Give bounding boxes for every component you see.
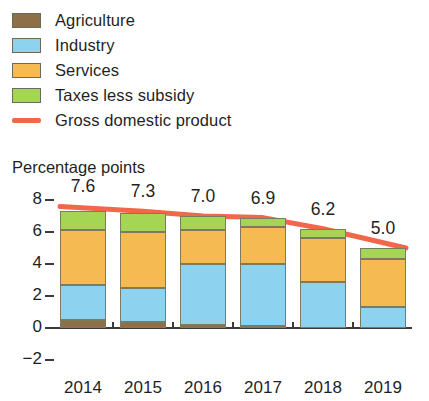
y-axis-tick-label: 2: [8, 285, 42, 305]
bar-segment[interactable]: [240, 227, 286, 264]
x-axis-tick-mark: [232, 322, 234, 328]
bar-segment[interactable]: [120, 232, 166, 288]
bar-segment[interactable]: [180, 264, 226, 325]
bar-segment[interactable]: [60, 230, 106, 284]
bar-segment[interactable]: [360, 307, 406, 328]
y-axis-tick-mark: [45, 295, 54, 297]
bar-segment[interactable]: [240, 264, 286, 326]
bar-data-label: 5.0: [348, 218, 418, 239]
bar-segment[interactable]: [120, 288, 166, 322]
y-axis-tick-label: 0: [8, 317, 42, 337]
bar-segment[interactable]: [240, 218, 286, 228]
x-axis-tick-mark: [292, 322, 294, 328]
x-axis-tick-mark: [172, 322, 174, 328]
y-axis-tick-label: 4: [8, 253, 42, 273]
bar-segment[interactable]: [60, 320, 106, 328]
bar-segment[interactable]: [60, 211, 106, 230]
y-axis-tick-label: −2: [8, 349, 42, 369]
bar-segment[interactable]: [300, 282, 346, 328]
bar-segment[interactable]: [120, 213, 166, 232]
y-axis-tick-mark: [45, 263, 54, 265]
bar-segment[interactable]: [300, 238, 346, 281]
bar-data-label: 6.2: [288, 199, 358, 220]
y-axis-tick-label: 8: [8, 189, 42, 209]
bar-stack[interactable]: [360, 0, 406, 401]
y-axis-tick-mark: [45, 199, 54, 201]
bar-segment[interactable]: [360, 259, 406, 307]
bar-segment[interactable]: [360, 248, 406, 259]
chart-plot-area: 86420−27.620147.320157.020166.920176.220…: [0, 0, 429, 401]
bar-segment[interactable]: [240, 326, 286, 328]
y-axis-tick-label: 6: [8, 221, 42, 241]
bar-segment[interactable]: [180, 325, 226, 328]
bar-segment[interactable]: [120, 322, 166, 328]
x-axis-tick-mark: [112, 322, 114, 328]
y-axis-tick-mark: [45, 359, 54, 361]
bar-stack[interactable]: [60, 0, 106, 401]
y-axis-tick-mark: [45, 327, 54, 329]
bar-segment[interactable]: [60, 285, 106, 320]
bar-segment[interactable]: [300, 229, 346, 239]
x-axis-tick-mark: [352, 322, 354, 328]
x-axis-tick-label: 2019: [348, 378, 418, 398]
bar-segment[interactable]: [180, 230, 226, 264]
bar-segment[interactable]: [180, 216, 226, 230]
y-axis-tick-mark: [45, 231, 54, 233]
